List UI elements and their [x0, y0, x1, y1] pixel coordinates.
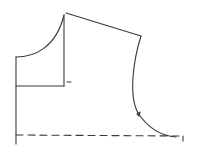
pattern-diagram [0, 0, 199, 159]
waist-guide-line [16, 135, 182, 136]
shoulder-line [66, 13, 141, 36]
armhole-curve [133, 36, 176, 137]
pattern-drawing [0, 0, 199, 159]
neckline-curve [16, 15, 64, 57]
